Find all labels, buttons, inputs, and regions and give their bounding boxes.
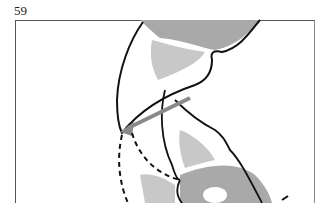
arrow-shaft	[128, 98, 190, 128]
dashed-path-inner	[132, 133, 180, 180]
dashed-path-outer	[119, 135, 128, 203]
lower-bone-shade	[179, 130, 215, 168]
corner-mark	[282, 196, 288, 200]
anatomical-diagram	[0, 0, 320, 203]
upper-bone-shade	[151, 40, 205, 80]
lower-left-shade	[140, 174, 175, 203]
joint-highlight	[203, 187, 227, 203]
